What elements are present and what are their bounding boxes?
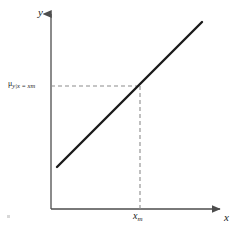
x-axis-tick-label-xm: xm	[133, 211, 143, 221]
corner-artifact-speck	[7, 215, 10, 218]
mu-subscript-tail: m	[30, 82, 35, 89]
plot-canvas	[0, 0, 236, 229]
regression-line	[57, 22, 202, 167]
regression-line-figure: y x xm μy|x = xm	[0, 0, 236, 229]
conditional-mean-label: μy|x = xm	[8, 80, 35, 88]
mu-subscript: y|x = x	[12, 82, 30, 89]
y-axis-label: y	[38, 7, 43, 18]
x-axis-label: x	[224, 212, 229, 223]
xm-subscript: m	[137, 215, 142, 223]
